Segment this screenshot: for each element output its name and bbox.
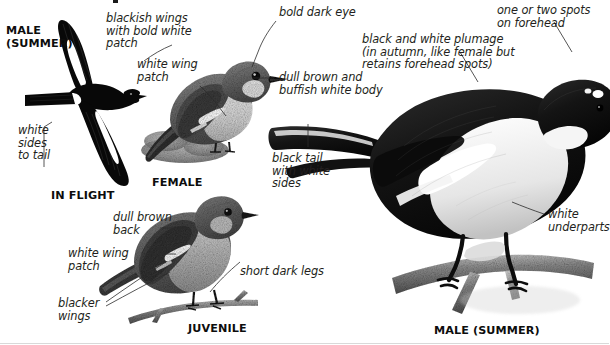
annotation-blacker-wings: blacker wings <box>58 297 99 322</box>
annotation-white-underparts: white underparts <box>548 208 610 233</box>
caption-male-summer-perched: MALE (SUMMER) <box>434 325 540 338</box>
caption-juvenile: JUVENILE <box>188 323 247 336</box>
annotation-blackish-wings: blackish wings with bold white patch <box>106 12 192 50</box>
annotation-forehead-spots: one or two spots on forehead <box>497 4 590 29</box>
annotation-black-tail-white-sides: black tail with white sides <box>272 152 330 190</box>
annotation-dull-brown-buffish-body: dull brown and buffish white body <box>279 71 383 96</box>
caption-in-flight: IN FLIGHT <box>51 190 114 203</box>
caption-female: FEMALE <box>152 177 202 190</box>
cropped-title-fragment <box>113 0 118 3</box>
annotation-short-dark-legs: short dark legs <box>240 265 324 278</box>
annotation-bold-dark-eye: bold dark eye <box>279 6 356 19</box>
plate-baseline-rule <box>0 343 609 344</box>
annotation-dull-brown-back: dull brown back <box>113 211 172 236</box>
annotation-white-sides-to-tail: white sides to tail <box>18 124 50 162</box>
caption-male-summer-flight: MALE (SUMMER) <box>6 25 73 50</box>
annotation-white-wing-patch-juvenile: white wing patch <box>68 247 129 272</box>
annotation-white-wing-patch-female: white wing patch <box>137 58 198 83</box>
annotation-black-and-white-plumage: black and white plumage (in autumn, like… <box>362 33 515 71</box>
male-perched-illustration <box>269 80 610 314</box>
